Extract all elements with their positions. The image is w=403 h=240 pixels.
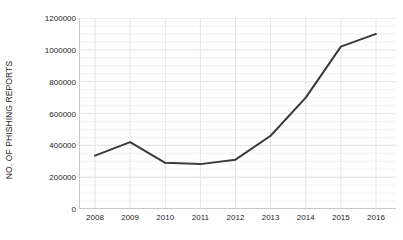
- x-axis-tick-label-group: 200820092010201120122013201420152016: [79, 213, 396, 231]
- y-axis-tick-label: 200000: [22, 173, 76, 182]
- y-axis-tick-label: 600000: [22, 109, 76, 118]
- plot-area: [79, 18, 396, 209]
- y-axis-tick-label-group: 020000040000060000080000010000001200000: [22, 0, 76, 240]
- x-axis-tick-label: 2009: [110, 213, 150, 223]
- y-axis-tick-label: 1000000: [22, 45, 76, 54]
- x-axis-tick-label: 2016: [356, 213, 396, 223]
- phishing-reports-line-chart: NO. OF PHISHING REPORTS 0200000400000600…: [0, 0, 403, 240]
- x-axis-tick-label: 2010: [145, 213, 185, 223]
- x-axis-tick-label: 2015: [321, 213, 361, 223]
- plot-svg: [79, 18, 396, 209]
- x-axis-tick-label: 2008: [75, 213, 115, 223]
- major-horizontal-gridlines: [79, 18, 396, 209]
- x-axis-tick-label: 2013: [251, 213, 291, 223]
- x-axis-tick-label: 2012: [216, 213, 256, 223]
- x-axis-tick-label: 2014: [286, 213, 326, 223]
- y-axis-tick-label: 400000: [22, 141, 76, 150]
- y-axis-tick-label: 0: [22, 205, 76, 214]
- y-axis-title: NO. OF PHISHING REPORTS: [0, 0, 18, 240]
- x-axis-tick-label: 2011: [180, 213, 220, 223]
- y-axis-tick-label: 800000: [22, 77, 76, 86]
- y-axis-tick-label: 1200000: [22, 14, 76, 23]
